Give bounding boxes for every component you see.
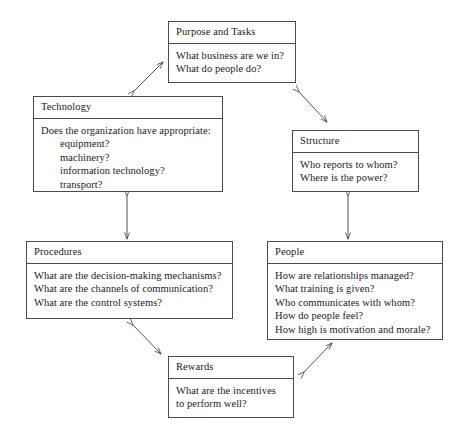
node-line: What are the decision-making mechanisms? <box>34 269 225 282</box>
node-title-purpose-and-tasks: Purpose and Tasks <box>169 22 295 44</box>
node-line: What business are we in? <box>176 49 288 62</box>
node-technology[interactable]: Technology Does the organization have ap… <box>33 96 223 192</box>
node-body-structure: Who reports to whom? Where is the power? <box>293 153 418 191</box>
node-body-rewards: What are the incentives to perform well? <box>169 379 293 417</box>
node-title-structure: Structure <box>293 131 418 153</box>
node-line: Where is the power? <box>300 171 411 184</box>
node-structure[interactable]: Structure Who reports to whom? Where is … <box>292 130 419 192</box>
node-line: What do people do? <box>176 62 288 75</box>
node-line: Does the organization have appropriate: <box>41 124 215 137</box>
node-line: to perform well? <box>176 397 286 410</box>
node-line: What are the control systems? <box>34 296 225 309</box>
node-line: What are the channels of communication? <box>34 282 225 295</box>
node-body-purpose-and-tasks: What business are we in? What do people … <box>169 44 295 82</box>
connector-procedures-rewards <box>133 325 161 354</box>
node-line: What training is given? <box>275 282 435 295</box>
node-body-people: How are relationships managed? What trai… <box>268 264 442 342</box>
node-line: How are relationships managed? <box>275 269 435 282</box>
node-line: information technology? <box>41 164 215 177</box>
node-title-technology: Technology <box>34 97 222 119</box>
diagram-canvas: Purpose and Tasks What business are we i… <box>0 0 467 431</box>
node-line: How do people feel? <box>275 309 435 322</box>
node-line: transport? <box>41 178 215 191</box>
node-line: machinery? <box>41 151 215 164</box>
node-line: equipment? <box>41 137 215 150</box>
node-title-people: People <box>268 242 442 264</box>
node-rewards[interactable]: Rewards What are the incentives to perfo… <box>168 356 294 418</box>
node-title-rewards: Rewards <box>169 357 293 379</box>
node-body-technology: Does the organization have appropriate: … <box>34 119 222 197</box>
connector-purpose-structure <box>299 92 327 122</box>
node-procedures[interactable]: Procedures What are the decision-making … <box>26 241 233 319</box>
node-line: What are the incentives <box>176 384 286 397</box>
node-line: Who reports to whom? <box>300 158 411 171</box>
connector-rewards-people <box>304 343 332 372</box>
node-line: How high is motivation and morale? <box>275 323 435 336</box>
node-title-procedures: Procedures <box>27 242 232 264</box>
node-people[interactable]: People How are relationships managed? Wh… <box>267 241 443 340</box>
node-purpose-and-tasks[interactable]: Purpose and Tasks What business are we i… <box>168 21 296 83</box>
node-line: Who communicates with whom? <box>275 296 435 309</box>
connector-technology-purpose <box>134 62 163 91</box>
node-body-procedures: What are the decision-making mechanisms?… <box>27 264 232 315</box>
